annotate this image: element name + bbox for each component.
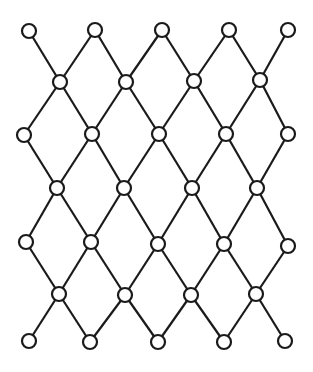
lattice-node — [85, 127, 99, 141]
lattice-edge — [192, 188, 224, 244]
lattice-node — [184, 288, 198, 302]
lattice-node — [151, 237, 165, 251]
lattice-edge — [256, 246, 288, 294]
lattice-edge — [126, 82, 159, 134]
lattice-node — [119, 75, 133, 89]
lattice-node — [219, 127, 233, 141]
lattice-edge — [192, 134, 226, 188]
lattice-node — [187, 74, 201, 88]
lattice-node — [83, 335, 97, 349]
lattice-edge — [26, 188, 57, 242]
lattice-edge — [158, 244, 191, 295]
lattice-edge — [256, 294, 285, 341]
lattice-edge — [158, 188, 192, 244]
lattice-edge — [224, 294, 256, 342]
lattice-edge — [92, 134, 124, 188]
lattice-node — [155, 23, 169, 37]
lattice-node — [88, 23, 102, 37]
lattice-edge — [229, 30, 260, 80]
lattice-node — [52, 287, 66, 301]
lattice-edge — [162, 30, 194, 81]
lattice-node — [152, 127, 166, 141]
lattice-edge — [125, 295, 158, 342]
lattice-node — [53, 75, 67, 89]
lattice-node — [278, 334, 292, 348]
lattice-node — [281, 23, 295, 37]
lattice-node — [50, 181, 64, 195]
lattice-edge — [90, 295, 125, 342]
lattice-edge — [226, 134, 257, 188]
lattice-node — [118, 288, 132, 302]
lattice-edge — [226, 80, 260, 134]
lattice-edge — [260, 80, 288, 134]
lattice-edge — [257, 188, 288, 246]
lattice-edge — [57, 134, 92, 188]
lattice-node — [217, 335, 231, 349]
lattice-node — [22, 24, 36, 38]
lattice-edge — [60, 82, 92, 134]
lattice-node — [222, 23, 236, 37]
lattice-edge — [24, 135, 57, 188]
lattice-nodes — [17, 23, 295, 349]
lattice-edge — [194, 30, 229, 81]
lattice-edge — [224, 188, 257, 244]
lattice-edge — [91, 188, 124, 242]
lattice-node — [281, 127, 295, 141]
lattice-edge — [29, 31, 60, 82]
lattice-node — [281, 239, 295, 253]
lattice-edge — [59, 294, 90, 342]
lattice-edge — [57, 188, 91, 242]
lattice-node — [185, 181, 199, 195]
lattice-node — [253, 73, 267, 87]
lattice-edge — [224, 244, 256, 294]
lattice-edge — [257, 134, 288, 188]
lattice-edge — [26, 242, 59, 294]
lattice-node — [117, 181, 131, 195]
lattice-edge — [125, 244, 158, 295]
lattice-edge — [59, 242, 91, 294]
lattice-edge — [260, 30, 288, 80]
lattice-edge — [24, 82, 60, 135]
lattice-edge — [60, 30, 95, 82]
lattice-edge — [126, 30, 162, 82]
lattice-node — [17, 128, 31, 142]
lattice-edge — [124, 134, 159, 188]
lattice-node — [22, 334, 36, 348]
lattice-edge — [92, 82, 126, 134]
lattice-edge — [191, 295, 224, 342]
lattice-edge — [95, 30, 126, 82]
lattice-node — [217, 237, 231, 251]
lattice-diagram — [0, 0, 313, 372]
lattice-edge — [194, 81, 226, 134]
lattice-edge — [124, 188, 158, 244]
lattice-node — [151, 335, 165, 349]
lattice-edge — [158, 295, 191, 342]
lattice-node — [84, 235, 98, 249]
lattice-edge — [191, 244, 224, 295]
lattice-node — [19, 235, 33, 249]
lattice-edge — [91, 242, 125, 295]
lattice-edge — [159, 81, 194, 134]
lattice-edge — [29, 294, 59, 341]
lattice-node — [249, 287, 263, 301]
lattice-edge — [159, 134, 192, 188]
lattice-node — [250, 181, 264, 195]
